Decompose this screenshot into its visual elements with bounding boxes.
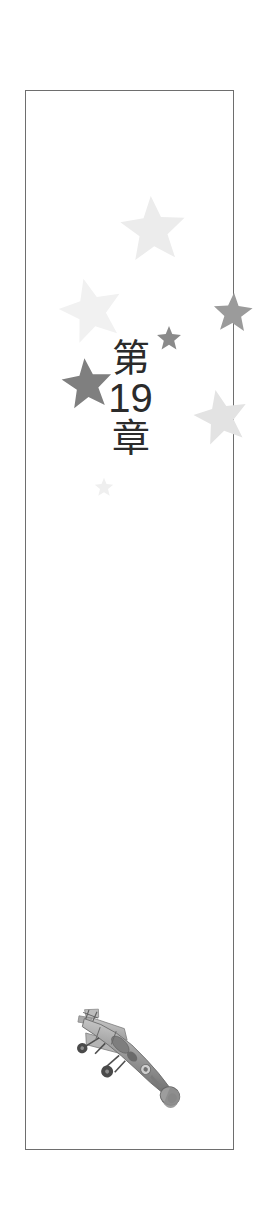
chapter-title-line-1: 第: [26, 339, 235, 378]
star-top-center-icon: [116, 191, 191, 266]
star-right-upper-icon: [211, 290, 255, 334]
chapter-number: 19: [26, 378, 235, 419]
chapter-title-line-3: 章: [26, 419, 235, 458]
chapter-title: 第 19 章: [26, 339, 235, 457]
page-border-frame: 第 19 章: [25, 90, 234, 1150]
chapter-title-page: 第 19 章: [0, 0, 261, 1221]
vintage-biplane-illustration: [54, 996, 204, 1116]
star-tiny-faint-icon: [94, 477, 114, 497]
